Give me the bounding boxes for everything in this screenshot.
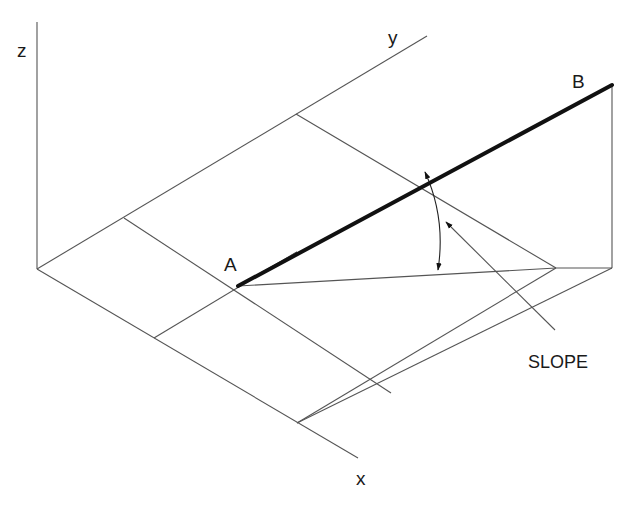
slope-leader <box>446 222 555 330</box>
point-a-label: A <box>224 254 237 275</box>
slope-angle-arc <box>425 172 440 270</box>
x-axis <box>37 269 358 458</box>
y-axis-label: y <box>388 27 398 48</box>
grid-line-y2 <box>297 268 556 423</box>
grid-line-x1 <box>124 218 391 393</box>
slope-label: SLOPE <box>528 352 588 372</box>
point-b-label: B <box>572 71 585 92</box>
x-axis-label: x <box>356 468 366 489</box>
slope-diagram: z y x A B SLOPE <box>0 0 626 510</box>
z-axis-label: z <box>17 40 27 61</box>
y-axis <box>37 36 427 269</box>
b-base-diag <box>297 268 612 423</box>
